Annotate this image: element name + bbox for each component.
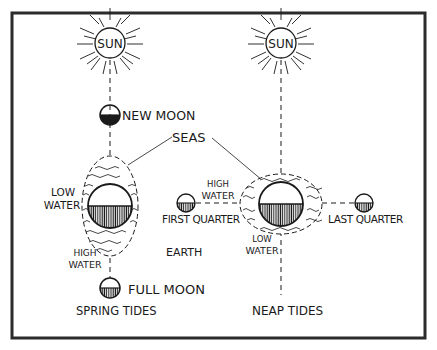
earth-icon: [259, 182, 303, 226]
seas-pointer-left: [128, 137, 172, 165]
neap-tides-caption: NEAP TIDES: [252, 304, 323, 318]
low-water-label: LOW: [51, 186, 76, 198]
spring-tides-caption: SPRING TIDES: [76, 304, 157, 318]
first-quarter-moon-icon: [177, 194, 195, 212]
neap-tides-panel: SUN FIRST QUARTER: [162, 8, 403, 318]
low-water-label-2: WATER: [245, 245, 278, 256]
earth-label: EARTH: [166, 246, 202, 259]
sun-label: SUN: [268, 37, 293, 51]
earth-icon: [88, 184, 132, 228]
high-water-label: HIGH: [207, 179, 229, 189]
seas-label: SEAS: [172, 130, 206, 145]
spring-tides-panel: SUN NEW MOON: [44, 8, 205, 318]
high-water-label-2: WATER: [68, 259, 101, 270]
first-quarter-label: FIRST QUARTER: [162, 213, 240, 225]
seas-pointer-right: [212, 138, 262, 180]
full-moon-label: FULL MOON: [128, 282, 205, 297]
new-moon-label: NEW MOON: [122, 108, 195, 123]
last-quarter-moon-icon: [355, 194, 373, 212]
high-water-label: HIGH: [73, 248, 96, 258]
last-quarter-label: LAST QUARTER: [328, 213, 403, 225]
frame-border: [12, 13, 425, 338]
low-water-label: LOW: [252, 234, 272, 244]
full-moon-icon: [100, 278, 120, 298]
sun-label: SUN: [97, 37, 122, 51]
low-water-label-2: WATER: [44, 199, 81, 211]
tides-diagram: SUN NEW MOON: [0, 0, 437, 350]
high-water-label-2: WATER: [201, 190, 234, 201]
